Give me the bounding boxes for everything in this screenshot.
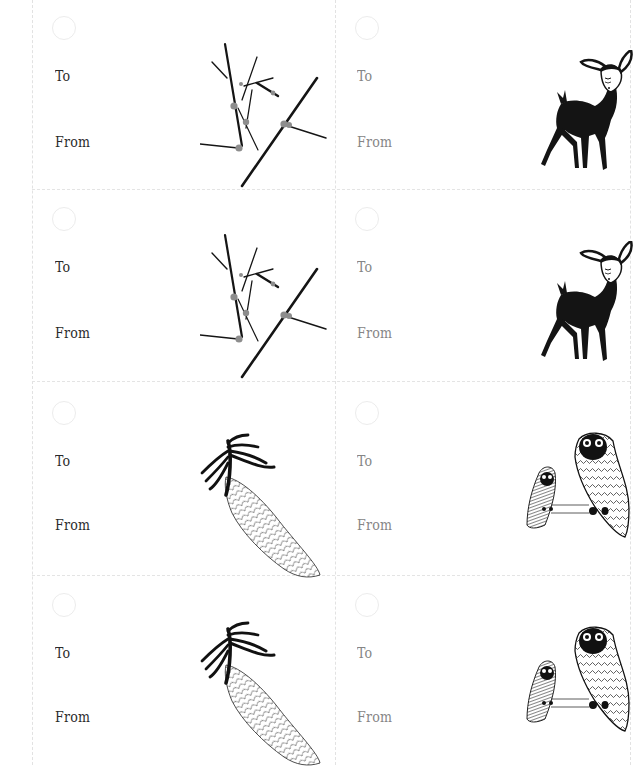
- to-label: To: [357, 259, 372, 275]
- gift-tag-fawn: To From: [335, 189, 630, 381]
- branch-with-berries-icon: [200, 40, 330, 190]
- punch-hole: [52, 593, 76, 617]
- from-label: From: [357, 709, 392, 725]
- fawn-deer-icon: [521, 241, 636, 363]
- pinecone-icon: [200, 621, 325, 770]
- from-label: From: [55, 517, 90, 533]
- gift-tag-branch: To From: [32, 0, 335, 189]
- gift-tag-fawn: To From: [335, 0, 630, 189]
- punch-hole: [355, 16, 379, 40]
- from-label: From: [357, 325, 392, 341]
- to-label: To: [357, 645, 372, 661]
- fawn-deer-icon: [521, 50, 636, 172]
- branch-with-berries-icon: [200, 231, 330, 381]
- punch-hole: [355, 207, 379, 231]
- owls-icon: [525, 619, 635, 737]
- gift-tag-owls: To From: [335, 381, 630, 575]
- punch-hole: [52, 401, 76, 425]
- gift-tag-pinecone: To From: [32, 575, 335, 765]
- punch-hole: [355, 401, 379, 425]
- to-label: To: [55, 68, 70, 84]
- gift-tag-owls: To From: [335, 575, 630, 765]
- punch-hole: [355, 593, 379, 617]
- to-label: To: [357, 68, 372, 84]
- pinecone-icon: [200, 433, 325, 583]
- from-label: From: [357, 134, 392, 150]
- to-label: To: [55, 259, 70, 275]
- gift-tag-pinecone: To From: [32, 381, 335, 575]
- from-label: From: [357, 517, 392, 533]
- gift-tag-branch: To From: [32, 189, 335, 381]
- from-label: From: [55, 325, 90, 341]
- to-label: To: [55, 645, 70, 661]
- to-label: To: [357, 453, 372, 469]
- to-label: To: [55, 453, 70, 469]
- from-label: From: [55, 134, 90, 150]
- owls-icon: [525, 425, 635, 543]
- punch-hole: [52, 207, 76, 231]
- from-label: From: [55, 709, 90, 725]
- punch-hole: [52, 16, 76, 40]
